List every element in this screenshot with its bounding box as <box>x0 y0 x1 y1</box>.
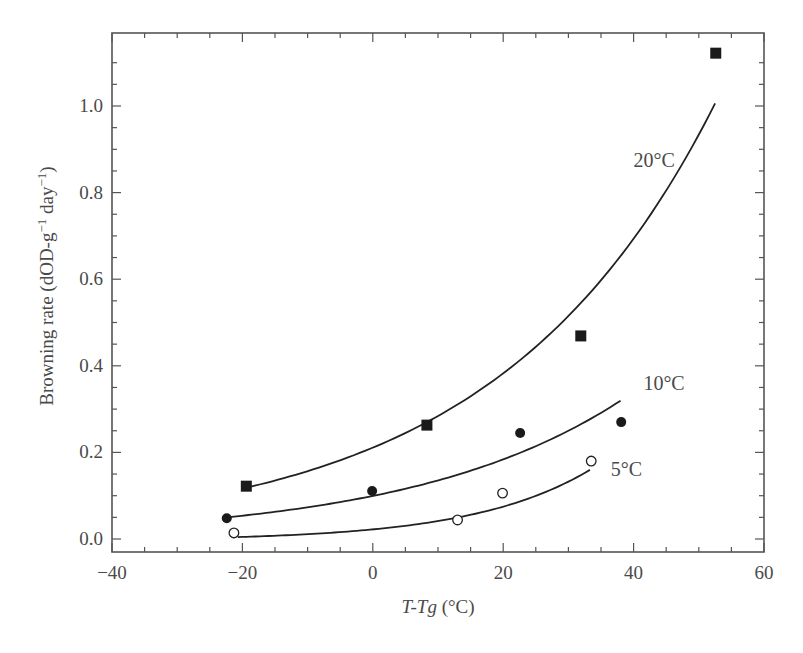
y-tick-label: 0.4 <box>79 355 103 376</box>
series-labels: 20°C10°C5°C <box>611 149 685 481</box>
series-label-20c: 20°C <box>634 149 675 171</box>
y-axis-title-text: ) <box>36 166 58 172</box>
y-tick-label: 0.2 <box>79 441 103 462</box>
y-axis-title-text: day <box>36 186 57 219</box>
browning-rate-chart: −40−200204060 0.00.20.40.60.81.0 20°C10°… <box>0 0 803 653</box>
y-axis-title-superscript: −1 <box>34 173 49 187</box>
square-marker <box>421 420 432 431</box>
x-axis-title-italic: T-Tg <box>401 596 437 617</box>
plot-border <box>112 33 764 552</box>
x-tick-label: −40 <box>97 562 127 583</box>
y-axis-title-text: Browning rate (dOD-g <box>36 232 58 406</box>
y-tick-label: 0.8 <box>79 182 103 203</box>
x-tick-label: −20 <box>228 562 258 583</box>
x-tick-label: 20 <box>494 562 513 583</box>
x-tick-label: 0 <box>368 562 378 583</box>
filled-circle-marker <box>222 513 232 523</box>
y-axis-title: Browning rate (dOD-g−1 day−1) <box>34 166 58 405</box>
square-marker <box>575 330 586 341</box>
fit-curve-10c <box>227 401 621 518</box>
square-marker <box>241 481 252 492</box>
x-tick-labels: −40−200204060 <box>97 562 773 583</box>
series-label-5c: 5°C <box>611 458 642 480</box>
square-marker <box>710 48 721 59</box>
x-axis-title: T-Tg (°C) <box>401 596 474 618</box>
plot-frame <box>112 33 764 552</box>
filled-circle-marker <box>367 486 377 496</box>
y-tick-labels: 0.00.20.40.60.81.0 <box>79 95 103 549</box>
x-tick-label: 40 <box>624 562 643 583</box>
data-points <box>222 48 722 538</box>
open-circle-marker <box>229 528 239 538</box>
open-circle-marker <box>453 515 463 525</box>
x-tick-label: 60 <box>755 562 774 583</box>
y-tick-label: 1.0 <box>79 95 103 116</box>
filled-circle-marker <box>515 428 525 438</box>
fit-curve-5c <box>238 470 590 537</box>
y-axis-title-superscript: −1 <box>34 219 49 233</box>
series-label-10c: 10°C <box>643 372 684 394</box>
filled-circle-marker <box>616 417 626 427</box>
open-circle-marker <box>498 488 508 498</box>
open-circle-marker <box>586 456 596 466</box>
y-tick-label: 0.6 <box>79 268 103 289</box>
y-tick-label: 0.0 <box>79 528 103 549</box>
x-axis-title-unit: (°C) <box>437 596 475 618</box>
axis-ticks <box>112 33 764 552</box>
